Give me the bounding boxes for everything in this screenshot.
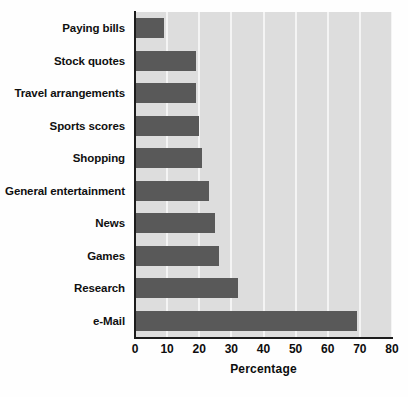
x-axis-line [134,337,393,339]
x-tick-label: 50 [281,342,311,356]
category-label: General entertainment [0,185,125,197]
x-tick-label: 40 [249,342,279,356]
category-label: News [0,217,125,229]
gridline [295,12,297,337]
bar [135,311,357,331]
bar [135,181,209,201]
bar [135,83,196,103]
category-label: Research [0,282,125,294]
x-axis-ticks: 01020304050607080 [0,342,408,358]
bar [135,213,215,233]
category-label: Shopping [0,152,125,164]
x-tick-label: 10 [152,342,182,356]
category-label: Travel arrangements [0,87,125,99]
gridline [359,12,361,337]
plot-area [135,12,392,337]
gridline [327,12,329,337]
x-tick-label: 70 [345,342,375,356]
y-axis-line [134,11,136,338]
bar [135,278,238,298]
bar [135,246,219,266]
category-label: Paying bills [0,22,125,34]
bar [135,51,196,71]
category-label: Stock quotes [0,55,125,67]
x-tick-label: 0 [120,342,150,356]
gridline [391,12,392,337]
category-label: e-Mail [0,315,125,327]
x-tick-label: 20 [184,342,214,356]
category-label: Sports scores [0,120,125,132]
bar-chart: Paying billsStock quotesTravel arrangeme… [0,0,408,397]
bar [135,116,199,136]
bar [135,18,164,38]
category-label: Games [0,250,125,262]
x-tick-label: 60 [313,342,343,356]
category-axis: Paying billsStock quotesTravel arrangeme… [0,12,131,337]
x-tick-label: 30 [216,342,246,356]
x-tick-label: 80 [377,342,407,356]
bar [135,148,202,168]
x-axis-title: Percentage [135,362,392,376]
gridline [263,12,265,337]
